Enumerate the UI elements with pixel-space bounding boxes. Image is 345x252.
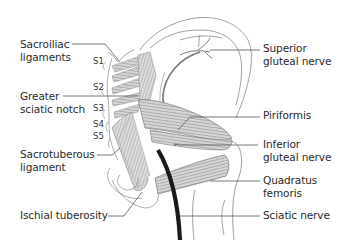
label-quadratus-femoris: Quadratus femoris xyxy=(263,174,317,199)
label-ischial-tuberosity: Ischial tuberosity xyxy=(20,209,108,222)
label-superior-gluteal-nerve: Superior gluteal nerve xyxy=(263,42,331,67)
label-sacroiliac-ligaments: Sacroiliac ligaments xyxy=(20,38,71,63)
label-sciatic-nerve: Sciatic nerve xyxy=(263,209,330,222)
superior-gluteal-nerve-drawing xyxy=(180,38,212,58)
label-s5: S5 xyxy=(93,131,104,141)
label-inferior-gluteal-nerve: Inferior gluteal nerve xyxy=(263,138,331,163)
label-s3: S3 xyxy=(93,103,104,113)
label-s1: S1 xyxy=(93,56,104,66)
label-piriformis: Piriformis xyxy=(263,109,311,122)
sciatic-nerve-drawing xyxy=(158,150,180,240)
sacrum-outline xyxy=(102,58,118,160)
quadratus-femoris-drawing xyxy=(155,155,229,194)
label-s4: S4 xyxy=(93,119,104,129)
hip-anatomy-diagram: Sacroiliac ligaments Greater sciatic not… xyxy=(0,0,345,252)
leader-sacrotuberous xyxy=(97,148,120,155)
label-greater-sciatic-notch: Greater sciatic notch xyxy=(20,90,85,115)
label-s2: S2 xyxy=(93,82,104,92)
label-sacrotuberous-ligament: Sacrotuberous ligament xyxy=(20,148,95,173)
